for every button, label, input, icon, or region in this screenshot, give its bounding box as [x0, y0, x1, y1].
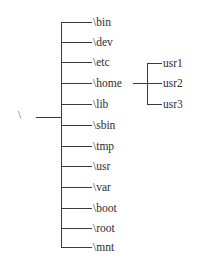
branch-connector: [61, 228, 92, 229]
node-label-lib: \lib: [93, 98, 108, 110]
node-label-dev: \dev: [93, 36, 113, 48]
branch-connector: [61, 42, 92, 43]
branch-connector: [61, 166, 92, 167]
branch-connector: [61, 125, 92, 126]
trunk-line: [61, 22, 62, 248]
node-label-bin: \bin: [93, 16, 111, 28]
node-label-var: \var: [93, 181, 111, 193]
node-label-tmp: \tmp: [93, 140, 114, 152]
node-label-usr3: usr3: [163, 98, 183, 110]
sub-branch-connector: [147, 104, 162, 105]
branch-connector: [61, 187, 92, 188]
branch-connector: [61, 83, 92, 84]
node-label-home: \home: [93, 77, 122, 89]
branch-connector: [61, 208, 92, 209]
node-label-mnt: \mnt: [93, 241, 114, 253]
home-sub-trunk: [147, 63, 148, 105]
sub-branch-connector: [147, 63, 162, 64]
branch-connector: [61, 62, 92, 63]
branch-connector: [61, 104, 92, 105]
node-label-usr: \usr: [93, 160, 110, 172]
node-label-usr2: usr2: [163, 77, 183, 89]
branch-connector: [61, 247, 92, 248]
branch-connector: [61, 146, 92, 147]
root-connector: [36, 117, 61, 118]
node-label-usr1: usr1: [163, 57, 183, 69]
node-label-sbin: \sbin: [93, 119, 115, 131]
node-label-etc: \etc: [93, 56, 110, 68]
node-label-root: \root: [93, 222, 115, 234]
branch-connector: [61, 22, 92, 23]
node-label-boot: \boot: [93, 202, 117, 214]
root-node-label: \: [18, 108, 21, 123]
